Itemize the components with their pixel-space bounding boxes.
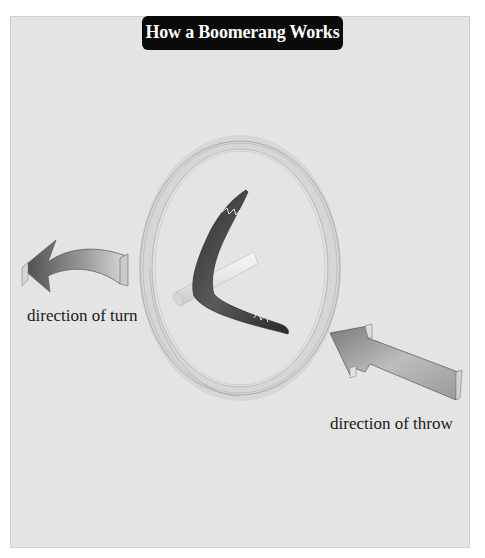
boomerang-diagram bbox=[0, 0, 485, 558]
direction-of-throw-label: direction of throw bbox=[330, 414, 453, 434]
straight-arrow-up-left-icon bbox=[330, 324, 462, 400]
direction-of-turn-label: direction of turn bbox=[27, 306, 137, 326]
curved-arrow-left-icon bbox=[22, 240, 128, 292]
